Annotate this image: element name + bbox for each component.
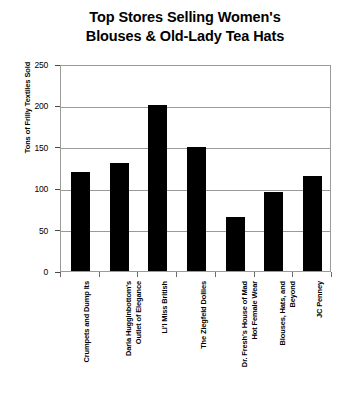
y-tick-label: 0 — [8, 268, 48, 276]
chart-title-line-1: Top Stores Selling Women's — [30, 8, 340, 27]
x-tick-mark — [215, 272, 216, 277]
x-axis-label: Li'l Miss British — [160, 281, 170, 401]
y-tick-label: 200 — [8, 102, 48, 110]
x-axis-label: Blouses, Hats, and Beyond — [278, 281, 297, 401]
x-axis-label: JC Penney — [315, 281, 325, 401]
gridline — [61, 107, 330, 108]
bar — [303, 176, 322, 271]
x-tick-mark — [254, 272, 255, 277]
y-tick-label: 150 — [8, 144, 48, 152]
x-axis-label: The Ziegfeld Dollies — [199, 281, 209, 401]
bar — [110, 163, 129, 271]
x-tick-mark — [331, 272, 332, 277]
y-tick-label: 50 — [8, 227, 48, 235]
x-tick-mark — [60, 272, 61, 277]
x-tick-mark — [137, 272, 138, 277]
bar — [264, 192, 283, 271]
bar — [148, 105, 167, 271]
x-tick-mark — [176, 272, 177, 277]
x-axis-label: Crumpets and Dump Its — [82, 281, 92, 401]
x-tick-mark — [99, 272, 100, 277]
x-axis-label: Dr. Fresh's House of Mad Hot Female Wear — [240, 281, 259, 401]
chart-title: Top Stores Selling Women's Blouses & Old… — [30, 8, 340, 46]
x-axis-label: Darla Hugginbottom's Outlet of Elegance — [124, 281, 143, 401]
chart-title-line-2: Blouses & Old-Lady Tea Hats — [30, 27, 340, 46]
bar — [187, 147, 206, 271]
y-tick-label: 100 — [8, 185, 48, 193]
bar — [71, 172, 90, 271]
x-tick-mark — [292, 272, 293, 277]
plot-area — [60, 65, 331, 272]
y-tick-label: 250 — [8, 61, 48, 69]
bar-chart: Top Stores Selling Women's Blouses & Old… — [0, 0, 352, 411]
bar — [226, 217, 245, 271]
